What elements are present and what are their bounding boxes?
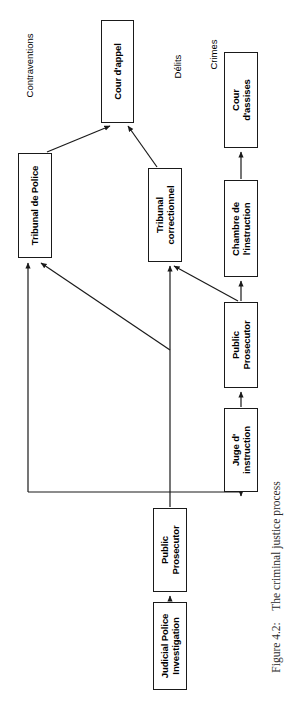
node-cour-assises[interactable]: Cour d'assises (224, 52, 258, 148)
figure-criminal-justice-process: Contraventions Délits Crimes Cour d'appe… (0, 0, 297, 702)
figure-caption-number: Figure 4.2: (270, 622, 282, 672)
category-label-contraventions-text: Contraventions (24, 18, 35, 114)
node-cour-appel[interactable]: Cour d'appel (101, 20, 134, 123)
figure-caption: Figure 4.2: The criminal justice process (256, 452, 296, 702)
node-chambre-instruction[interactable]: Chambre de l'instruction (224, 180, 258, 277)
category-label-crimes: Crimes (204, 32, 222, 78)
node-public-prosecutor-bottom[interactable]: Public Prosecutor (153, 508, 187, 592)
node-tribunal-correctionnel[interactable]: Tribunal correctionnel (148, 168, 182, 262)
category-label-delits-text: Délits (172, 44, 183, 90)
edge-prosecutor-bottom-to-tribunal-police-diagonal (41, 263, 170, 350)
node-judicial-police-investigation-label: Judicial Police Investigation (159, 614, 181, 679)
category-label-contraventions: Contraventions (20, 18, 38, 114)
edge-tribunal-police-to-cour-appel (47, 126, 110, 152)
node-chambre-instruction-label: Chambre de l'instruction (230, 202, 252, 256)
node-juge-instruction-label: Juge d' instruction (230, 426, 252, 474)
figure-caption-body: The criminal justice process (270, 481, 282, 610)
node-tribunal-correctionnel-label: Tribunal correctionnel (154, 186, 176, 245)
node-cour-appel-label: Cour d'appel (112, 43, 123, 99)
node-judicial-police-investigation[interactable]: Judicial Police Investigation (153, 602, 187, 690)
figure-caption-text: Figure 4.2: The criminal justice process (270, 481, 282, 672)
node-tribunal-police-label: Tribunal de Police (30, 166, 41, 246)
node-juge-instruction[interactable]: Juge d' instruction (224, 408, 258, 492)
category-label-delits: Délits (168, 44, 186, 90)
edge-tribunal-correctionnel-to-cour-appel (128, 126, 157, 167)
node-cour-assises-label: Cour d'assises (230, 79, 252, 121)
node-public-prosecutor-top[interactable]: Public Prosecutor (224, 302, 258, 388)
node-public-prosecutor-bottom-label: Public Prosecutor (159, 525, 181, 574)
node-public-prosecutor-top-label: Public Prosecutor (230, 320, 252, 369)
category-label-crimes-text: Crimes (208, 32, 219, 78)
node-tribunal-police[interactable]: Tribunal de Police (18, 153, 52, 258)
